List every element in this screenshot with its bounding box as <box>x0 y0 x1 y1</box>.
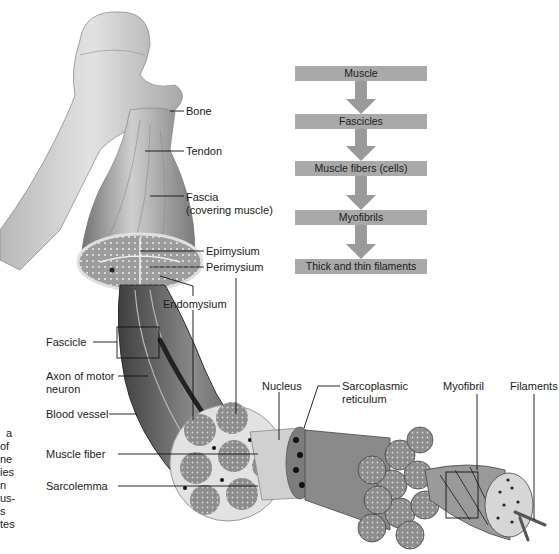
single-myofibril <box>425 465 545 540</box>
flow-step-filaments: Thick and thin filaments <box>295 259 427 274</box>
label-axon: Axon of motor <box>46 370 114 382</box>
down-arrow-icon <box>346 81 376 114</box>
flow-step-fascicles: Fascicles <box>295 114 427 129</box>
caption-fragment: s <box>0 505 6 517</box>
caption-fragment: of <box>0 440 9 452</box>
down-arrow-icon <box>346 176 376 210</box>
flow-step-myofibrils: Myofibrils <box>295 210 427 225</box>
caption-fragment: a <box>6 427 12 439</box>
label-axon-sub: neuron <box>46 383 80 395</box>
muscle-anatomy-illustration <box>0 0 559 554</box>
down-arrow-icon <box>346 129 376 161</box>
label-epimysium: Epimysium <box>206 245 260 257</box>
down-arrow-icon <box>346 225 376 259</box>
label-fascia-sub: (covering muscle) <box>186 204 273 216</box>
label-perimysium: Perimysium <box>206 261 263 273</box>
label-filaments: Filaments <box>510 380 558 392</box>
caption-fragment: n <box>0 479 6 491</box>
myofibril-bundle <box>305 427 439 549</box>
caption-fragment: ies <box>0 466 14 478</box>
muscle-cross-section <box>78 234 202 290</box>
label-nucleus: Nucleus <box>262 380 302 392</box>
caption-fragment: ne <box>0 453 12 465</box>
label-muscle-fiber: Muscle fiber <box>46 448 105 460</box>
label-tendon: Tendon <box>186 145 222 157</box>
label-bone: Bone <box>186 105 212 117</box>
label-sarcoplasmic: Sarcoplasmic <box>342 380 408 392</box>
caption-fragment: us- <box>0 492 15 504</box>
label-sarcolemma: Sarcolemma <box>46 480 108 492</box>
label-sarcoplasmic-sub: reticulum <box>342 393 387 405</box>
label-endomysium: Endomysium <box>163 298 227 310</box>
flow-step-muscle-fibers: Muscle fibers (cells) <box>295 161 427 176</box>
caption-fragment: tes <box>0 518 15 530</box>
label-myofibril: Myofibril <box>443 380 484 392</box>
label-fascia: Fascia <box>186 191 218 203</box>
flow-step-muscle: Muscle <box>295 66 427 81</box>
label-fascicle: Fascicle <box>46 336 86 348</box>
label-blood-vessel: Blood vessel <box>46 408 108 420</box>
